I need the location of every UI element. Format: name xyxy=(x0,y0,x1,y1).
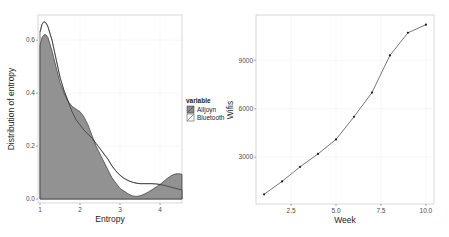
wifis-y-axis: 300060009000 xyxy=(239,57,256,161)
chart-canvas: 0.00.20.40.6 1234 Entropy Distribution o… xyxy=(0,0,449,237)
wifis-x-tick-label: 2.5 xyxy=(287,207,296,214)
wifis-data-point xyxy=(281,180,283,182)
legend-item-bluetooth: Bluetooth xyxy=(187,114,225,121)
legend-label-alljoyn: Alljoyn xyxy=(197,106,217,114)
wifis-chart: 300060009000 2.55.07.510.0 Week Wifis xyxy=(225,15,434,225)
wifis-x-tick-label: 10.0 xyxy=(420,207,433,214)
wifis-y-axis-title: Wifis xyxy=(225,101,235,119)
density-y-tick-label: 0.0 xyxy=(26,195,35,202)
wifis-data-point xyxy=(407,32,409,34)
density-x-tick-label: 2 xyxy=(78,206,82,213)
density-y-tick-label: 0.4 xyxy=(26,89,35,96)
wifis-x-axis: 2.55.07.510.0 xyxy=(287,204,433,214)
figure: 0.00.20.40.6 1234 Entropy Distribution o… xyxy=(0,0,449,237)
wifis-x-axis-title: Week xyxy=(334,215,356,225)
density-chart: 0.00.20.40.6 1234 Entropy Distribution o… xyxy=(6,15,182,224)
legend-title: variable xyxy=(186,97,211,104)
wifis-data-point xyxy=(317,153,319,155)
density-x-tick-label: 1 xyxy=(38,206,42,213)
density-x-axis-title: Entropy xyxy=(95,214,125,224)
wifis-y-tick-label: 6000 xyxy=(239,105,254,112)
wifis-y-tick-label: 3000 xyxy=(239,153,254,160)
density-y-axis-title: Distribution of entropy xyxy=(6,67,16,150)
legend-item-alljoyn: Alljoyn xyxy=(187,106,217,114)
wifis-data-point xyxy=(389,54,391,56)
density-x-tick-label: 4 xyxy=(158,206,162,213)
density-x-axis: 1234 xyxy=(38,203,162,213)
wifis-plot-panel xyxy=(256,15,434,204)
wifis-data-point xyxy=(299,166,301,168)
density-y-tick-label: 0.6 xyxy=(26,36,35,43)
wifis-x-tick-label: 7.5 xyxy=(376,207,385,214)
wifis-data-point xyxy=(335,138,337,140)
legend-label-bluetooth: Bluetooth xyxy=(197,114,225,121)
wifis-y-tick-label: 9000 xyxy=(239,57,254,64)
wifis-data-point xyxy=(371,91,373,93)
wifis-x-tick-label: 5.0 xyxy=(331,207,340,214)
wifis-data-point xyxy=(353,116,355,118)
density-y-tick-label: 0.2 xyxy=(26,142,35,149)
wifis-data-point xyxy=(425,24,427,26)
legend: variable Alljoyn Bluetooth xyxy=(186,97,225,121)
wifis-data-point xyxy=(263,193,265,195)
density-y-axis: 0.00.20.40.6 xyxy=(26,36,38,202)
density-x-tick-label: 3 xyxy=(118,206,122,213)
